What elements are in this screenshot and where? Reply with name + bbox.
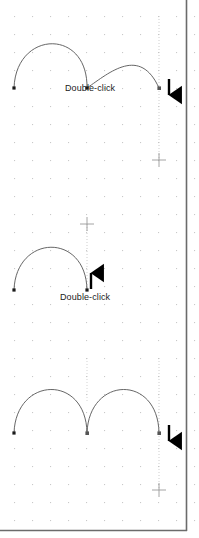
anchor-point-icon[interactable] — [12, 288, 15, 291]
curve-edit-figure: Double-click Double-click — [0, 0, 199, 538]
drawing-canvas[interactable] — [0, 0, 199, 538]
anchor-point-icon[interactable] — [12, 431, 15, 434]
double-click-label-middle: Double-click — [60, 292, 110, 302]
anchor-point-icon[interactable] — [85, 431, 89, 435]
double-click-label-top: Double-click — [65, 83, 115, 93]
anchor-point-icon[interactable] — [12, 86, 15, 89]
anchor-point-icon[interactable] — [157, 86, 161, 90]
anchor-point-icon[interactable] — [157, 431, 161, 435]
